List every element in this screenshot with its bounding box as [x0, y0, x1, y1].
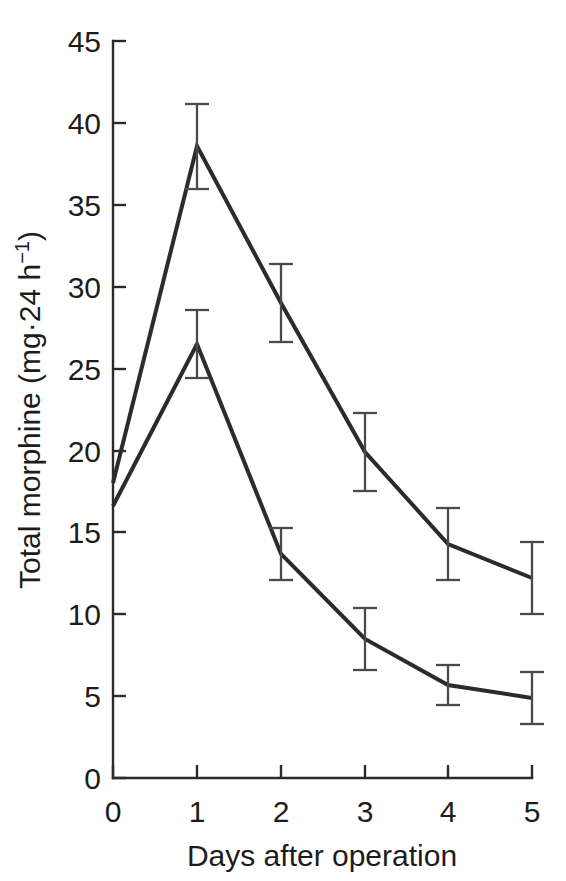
axes-spines [113, 41, 532, 778]
x-axis-tick-labels: 0 1 2 3 4 5 [105, 795, 541, 828]
errorbar-upper-day4 [436, 508, 460, 580]
errorbar-lower-day3 [353, 608, 377, 670]
x-tick-label-2: 2 [273, 795, 290, 828]
x-tick-label-3: 3 [357, 795, 374, 828]
y-axis-title-close: ) [13, 231, 46, 241]
y-tick-label-15: 15 [68, 516, 101, 549]
y-tick-label-40: 40 [68, 107, 101, 140]
y-tick-label-45: 45 [68, 25, 101, 58]
errorbar-upper-day3 [353, 413, 377, 491]
y-axis-title-exponent: −1 [11, 241, 33, 264]
x-axis-title: Days after operation [187, 839, 457, 872]
series-line-lower [113, 344, 532, 698]
y-tick-label-35: 35 [68, 189, 101, 222]
errorbar-upper-day2 [269, 264, 293, 342]
y-tick-label-25: 25 [68, 353, 101, 386]
errorbars-lower [185, 310, 544, 724]
y-axis-ticks [113, 41, 126, 778]
figure-panel: 45 40 35 30 25 20 15 10 5 0 0 1 2 3 4 [0, 0, 566, 881]
y-tick-label-5: 5 [84, 680, 101, 713]
y-axis-tick-labels: 45 40 35 30 25 20 15 10 5 0 [68, 25, 101, 795]
y-tick-label-30: 30 [68, 271, 101, 304]
y-tick-label-10: 10 [68, 598, 101, 631]
x-tick-label-0: 0 [105, 795, 122, 828]
x-tick-label-4: 4 [440, 795, 457, 828]
y-axis-title-group: Total morphine (mg·24 h−1) [11, 231, 46, 589]
x-axis-ticks [113, 765, 532, 778]
y-tick-label-20: 20 [68, 435, 101, 468]
y-tick-label-0: 0 [84, 762, 101, 795]
morphine-line-chart: 45 40 35 30 25 20 15 10 5 0 0 1 2 3 4 [0, 0, 566, 881]
x-tick-label-5: 5 [524, 795, 541, 828]
x-tick-label-1: 1 [189, 795, 206, 828]
series-line-upper [113, 146, 532, 578]
y-axis-title-main: Total morphine (mg·24 h [13, 264, 46, 589]
y-axis-title: Total morphine (mg·24 h−1) [11, 231, 46, 589]
errorbars-upper [185, 104, 544, 614]
errorbar-upper-day5 [520, 542, 544, 614]
